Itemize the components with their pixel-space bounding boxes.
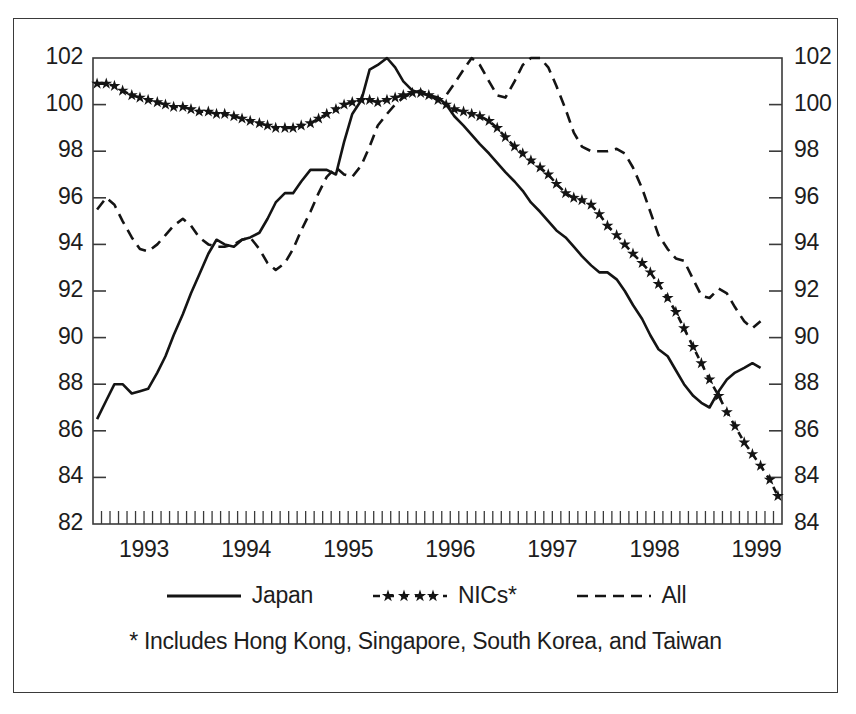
series-star-marker (678, 322, 690, 333)
series-star-marker (653, 278, 665, 289)
x-axis-label: 1999 (711, 536, 801, 563)
chart-footnote: * Includes Hong Kong, Singapore, South K… (13, 628, 838, 655)
y-axis-label-left: 86 (25, 416, 83, 443)
y-axis-label-left: 82 (25, 509, 83, 536)
y-axis-label-left: 84 (25, 462, 83, 489)
y-axis-label-left: 90 (25, 323, 83, 350)
y-axis-label-left: 98 (25, 136, 83, 163)
x-axis-label: 1995 (303, 536, 393, 563)
y-axis-label-left: 92 (25, 276, 83, 303)
plot-frame (93, 58, 782, 524)
series-star-marker (721, 406, 733, 417)
y-axis-label-left: 100 (25, 90, 83, 117)
series-nics- (91, 77, 784, 501)
series-star-marker (126, 89, 138, 100)
series-star-marker (704, 373, 716, 384)
series-star-marker (244, 115, 256, 126)
legend-item-all[interactable]: All (575, 582, 687, 609)
series-star-marker (517, 147, 529, 158)
series-star-marker (202, 105, 214, 116)
y-axis-label-right: 92 (794, 276, 852, 303)
y-axis-label-right: 98 (794, 136, 852, 163)
y-axis-label-right: 86 (794, 416, 852, 443)
series-star-marker (568, 192, 580, 203)
series-star-marker (253, 117, 265, 128)
series-star-marker (305, 117, 317, 128)
series-star-marker (381, 94, 393, 105)
series-star-marker (755, 460, 767, 471)
series-star-marker (295, 119, 307, 130)
y-axis-label-right: 100 (794, 90, 852, 117)
legend-item-japan[interactable]: Japan (165, 582, 313, 609)
series-star-marker (228, 110, 240, 121)
y-axis-label-right: 96 (794, 183, 852, 210)
legend-star-marker (427, 589, 439, 601)
y-axis-label-right: 84 (794, 462, 852, 489)
series-star-marker (738, 436, 750, 447)
y-axis-label-left: 96 (25, 183, 83, 210)
legend-star-marker (398, 589, 410, 601)
legend-swatch-solid-icon (165, 586, 243, 606)
series-star-marker (695, 357, 707, 368)
y-axis-label-right: 102 (794, 43, 852, 70)
legend-label: All (662, 582, 687, 609)
legend-item-nics[interactable]: NICs* (371, 582, 517, 609)
series-star-marker (687, 341, 699, 352)
x-axis-label: 1994 (201, 536, 291, 563)
legend-swatch-dashed-icon (575, 586, 653, 606)
legend-swatch-dashed-star-icon (371, 586, 449, 606)
series-star-marker (177, 101, 189, 112)
series-star-marker (270, 122, 282, 133)
series-star-marker (151, 96, 163, 107)
y-axis-label-right: 88 (794, 369, 852, 396)
x-axis-label: 1998 (609, 536, 699, 563)
y-axis-label-left: 88 (25, 369, 83, 396)
x-axis-label: 1996 (405, 536, 495, 563)
series-star-marker (193, 105, 205, 116)
series-star-marker (764, 474, 776, 485)
y-axis-label-right: 84 (794, 509, 852, 536)
series-star-marker (525, 154, 537, 165)
y-axis-label-left: 94 (25, 229, 83, 256)
y-axis-label-right: 94 (794, 229, 852, 256)
x-axis-label: 1997 (507, 536, 597, 563)
legend-label: Japan (252, 582, 313, 609)
series-star-marker (747, 448, 759, 459)
series-line (97, 84, 778, 496)
x-axis-label: 1993 (99, 536, 189, 563)
legend-label: NICs* (458, 582, 517, 609)
series-star-marker (466, 108, 478, 119)
y-axis-label-left: 102 (25, 43, 83, 70)
series-star-marker (662, 292, 674, 303)
chart-legend: JapanNICs*All (13, 582, 838, 609)
series-star-marker (142, 94, 154, 105)
y-axis-label-right: 90 (794, 323, 852, 350)
